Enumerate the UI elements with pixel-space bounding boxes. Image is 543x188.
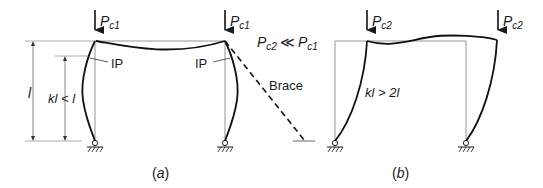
dim-label-l: l — [28, 85, 32, 101]
ip-label-left: IP — [111, 56, 123, 71]
pin-support-icon — [327, 140, 343, 152]
deformed-beam — [96, 41, 225, 50]
pin-support-icon — [458, 140, 474, 152]
deformed-beam — [367, 36, 497, 44]
deformed-left-column — [335, 41, 367, 141]
load-label-right-b: Pc2 — [503, 13, 523, 31]
caption-b: (b) — [392, 165, 409, 181]
pin-support-icon — [217, 140, 233, 152]
load-label-right-a: Pc1 — [230, 13, 250, 31]
pin-support-icon — [87, 140, 103, 152]
deformed-right-column — [225, 41, 238, 141]
load-label-left-a: Pc1 — [100, 13, 120, 31]
load-label-left-b: Pc2 — [372, 13, 392, 31]
deformed-right-column — [466, 40, 497, 141]
braced-unbraced-frame-diagram: Pc1 Pc1 IP IP l kl < l Pc2≪Pc1 Brace (a)… — [0, 0, 543, 188]
dim-label-kl: kl < l — [48, 91, 76, 106]
effective-length-label: kl > 2l — [365, 85, 400, 100]
brace-label: Brace — [269, 78, 303, 93]
caption-a: (a) — [152, 165, 169, 181]
ip-label-right: IP — [195, 56, 207, 71]
panel-b: Pc2 Pc2 kl > 2l (b) — [327, 10, 523, 181]
panel-a: Pc1 Pc1 IP IP l kl < l Pc2≪Pc1 Brace (a) — [25, 10, 318, 181]
load-relation-label: Pc2≪Pc1 — [257, 34, 318, 52]
